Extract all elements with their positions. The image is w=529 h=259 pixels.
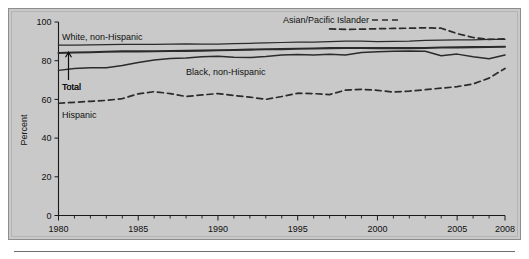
series-line-hispanic [59, 68, 506, 103]
series-line-black-non-hispanic [59, 51, 506, 70]
line-chart: 0204060801001980198519901995200020052008… [0, 0, 529, 259]
series-line-asian-pacific-islander [330, 28, 505, 40]
series-label-black-non-hispanic: Black, non-Hispanic [186, 67, 266, 77]
series-label-asian-pacific-islander: Asian/Pacific Islander [283, 15, 369, 25]
x-tick-label: 2000 [367, 224, 387, 234]
x-tick-label: 1990 [208, 224, 228, 234]
y-axis-title: Percent [19, 114, 29, 146]
y-tick-label: 20 [41, 172, 51, 182]
figure-root: 0204060801001980198519901995200020052008… [0, 0, 529, 259]
footer-rule [14, 251, 515, 252]
y-tick-label: 80 [41, 56, 51, 66]
annotation-total-arrow [66, 52, 72, 80]
y-tick-label: 60 [41, 95, 51, 105]
x-tick-label: 1980 [48, 224, 68, 234]
series-line-total [59, 47, 506, 53]
annotation-total-label: Total [62, 82, 81, 92]
y-tick-label: 0 [46, 211, 51, 221]
series-label-hispanic: Hispanic [62, 110, 97, 120]
x-tick-label: 2005 [447, 224, 467, 234]
x-tick-label: 1995 [288, 224, 308, 234]
series-label-white-non-hispanic: White, non-Hispanic [62, 32, 143, 42]
y-tick-label: 40 [41, 133, 51, 143]
x-tick-label: 1985 [128, 224, 148, 234]
x-tick-label: 2008 [495, 224, 515, 234]
y-tick-label: 100 [36, 17, 51, 27]
